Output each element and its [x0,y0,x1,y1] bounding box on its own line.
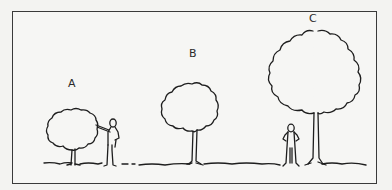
tree-c [268,30,360,165]
person-a [96,119,119,166]
tree-a [47,109,98,166]
ground-line [44,163,366,165]
person-c [283,124,299,166]
tree-comparison-illustration [0,0,392,190]
tree-a-label: A [68,78,76,89]
tree-c-label: C [309,13,317,24]
tree-b-label: B [189,48,197,59]
tree-b [161,83,218,165]
